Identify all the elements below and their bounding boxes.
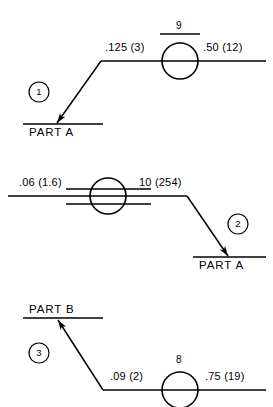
symbol-3-group: [23, 318, 266, 407]
symbol-2-group: [8, 178, 266, 257]
symbol-3-badge-number: 3: [29, 348, 49, 358]
symbol-3-left-dimension: .09 (2): [110, 370, 143, 382]
welding-symbols-svg: [0, 0, 273, 407]
symbol-2-right-dimension: 10 (254): [139, 176, 182, 188]
drawing-sheet: .125 (3) .50 (12) 9 PART A 1 .06 (1.6) 1…: [0, 0, 273, 407]
symbol-3-weld-size: 8: [176, 354, 182, 366]
symbol-3-part-label: PART B: [29, 303, 75, 315]
symbol-1-part-label: PART A: [29, 126, 74, 138]
symbol-1-left-dimension: .125 (3): [105, 41, 145, 53]
symbol-1-weld-size: 9: [176, 20, 182, 32]
symbol-2-badge-number: 2: [228, 219, 248, 229]
symbol-3-leader-line: [58, 320, 103, 390]
symbol-1-right-dimension: .50 (12): [203, 41, 243, 53]
symbol-2-part-label: PART A: [199, 259, 244, 271]
symbol-1-badge-number: 1: [29, 87, 49, 97]
symbol-2-leader-line: [187, 196, 228, 256]
symbol-3-right-dimension: .75 (19): [205, 370, 245, 382]
symbol-1-leader-line: [57, 61, 101, 123]
symbol-2-left-dimension: .06 (1.6): [19, 176, 62, 188]
